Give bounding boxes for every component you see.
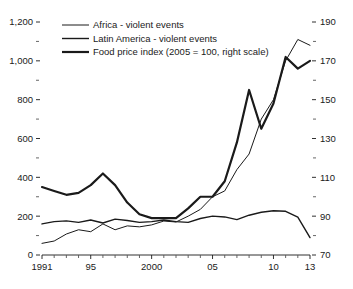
legend-label-latin-america: Latin America - violent events: [93, 33, 217, 44]
y-right-tick-label: 150: [320, 94, 336, 105]
y-right-tick-label: 90: [320, 211, 331, 222]
series-line-latin-america: [42, 211, 310, 238]
y-right-tick-label: 190: [320, 16, 336, 27]
chart-container: 199195200005101302004006008001,0001,2007…: [0, 0, 353, 289]
x-tick-label: 95: [85, 261, 96, 272]
y-right-tick-label: 110: [320, 172, 335, 183]
legend-label-food-price-index: Food price index (2005 = 100, right scal…: [93, 46, 269, 57]
y-right-tick-label: 130: [320, 133, 336, 144]
y-left-tick-label: 1,200: [9, 16, 33, 27]
y-left-tick-label: 800: [17, 94, 33, 105]
y-left-tick-label: 200: [17, 211, 33, 222]
x-tick-label: 1991: [31, 261, 52, 272]
series-line-africa: [42, 39, 310, 243]
y-right-tick-label: 70: [320, 249, 331, 260]
y-right-tick-label: 170: [320, 55, 336, 66]
y-left-tick-label: 1,000: [9, 55, 33, 66]
legend-label-africa: Africa - violent events: [93, 19, 184, 30]
x-tick-label: 05: [207, 261, 218, 272]
y-left-tick-label: 400: [17, 172, 33, 183]
x-tick-label: 10: [268, 261, 279, 272]
dual-axis-line-chart: 199195200005101302004006008001,0001,2007…: [0, 0, 353, 289]
x-tick-label: 13: [305, 261, 316, 272]
y-left-tick-label: 600: [17, 133, 33, 144]
x-tick-label: 2000: [141, 261, 162, 272]
y-left-tick-label: 0: [28, 249, 33, 260]
series-line-food-price-index: [42, 57, 310, 218]
